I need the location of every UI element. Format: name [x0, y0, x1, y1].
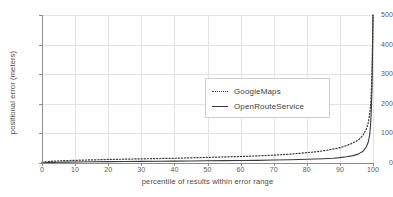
xtick-label-80: 80: [292, 166, 322, 174]
xtick-label-20: 20: [93, 166, 123, 174]
xtick-label-10: 10: [60, 166, 90, 174]
legend: GoogleMaps OpenRouteService: [205, 78, 330, 118]
ytick-500: [39, 15, 42, 16]
legend-label-googlemaps: GoogleMaps: [234, 87, 281, 96]
ytick-label-300: 300: [359, 70, 393, 78]
legend-item-openrouteservice: OpenRouteService: [212, 100, 304, 113]
legend-item-googlemaps: GoogleMaps: [212, 85, 281, 98]
legend-label-openrouteservice: OpenRouteService: [234, 102, 304, 111]
y-axis-title: positional error (meters): [8, 29, 17, 157]
ytick-label-500: 500: [359, 11, 393, 19]
xtick-label-70: 70: [259, 166, 289, 174]
xtick-label-40: 40: [159, 166, 189, 174]
ytick-label-200: 200: [359, 100, 393, 108]
y-axis: [42, 15, 43, 164]
ytick-200: [39, 104, 42, 105]
ytick-100: [39, 133, 42, 134]
xtick-label-50: 50: [193, 166, 223, 174]
ytick-300: [39, 74, 42, 75]
y-axis-title-wrap: positional error (meters): [0, 0, 12, 197]
chart-container: 500 400 300 200 100 0 0 10 20 30 40 50 6…: [0, 0, 393, 197]
legend-swatch-dotted-icon: [212, 89, 228, 95]
x-axis-title: percentile of results within error range: [42, 177, 373, 186]
xtick-label-30: 30: [126, 166, 156, 174]
xtick-label-0: 0: [27, 166, 57, 174]
ytick-label-400: 400: [359, 41, 393, 49]
xtick-label-100: 100: [358, 166, 388, 174]
legend-swatch-solid-icon: [212, 104, 228, 110]
xtick-label-60: 60: [226, 166, 256, 174]
xtick-label-90: 90: [325, 166, 355, 174]
ytick-label-100: 100: [359, 129, 393, 137]
ytick-400: [39, 45, 42, 46]
